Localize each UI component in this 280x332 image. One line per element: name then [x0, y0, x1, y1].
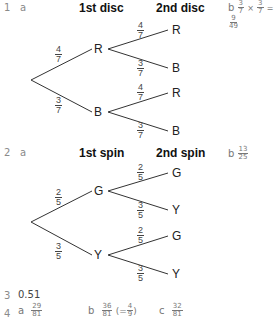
- part-label: b: [88, 305, 94, 316]
- fraction: 3681: [102, 303, 113, 318]
- fraction: 3281: [172, 303, 183, 318]
- answer-2b: b 1325: [228, 146, 248, 161]
- branch-probability: 25: [55, 188, 62, 207]
- tree-node: G: [172, 229, 181, 243]
- tree-node: G: [94, 184, 103, 198]
- part-label: a: [20, 147, 26, 158]
- answer-4b: b 3681 (=49): [88, 303, 137, 318]
- tree-header-second: 2nd spin: [156, 146, 205, 160]
- branch-probability: 37: [137, 59, 144, 78]
- answer-3: 0.51: [18, 289, 40, 300]
- branch-probability: 35: [137, 264, 144, 283]
- tree-node: B: [172, 61, 180, 75]
- part-label: b: [228, 148, 234, 159]
- fraction: 1325: [238, 146, 249, 161]
- part-label: a: [18, 305, 24, 316]
- tree-node: R: [172, 23, 181, 37]
- tree-node: Y: [172, 267, 180, 281]
- branch-probability: 47: [137, 83, 144, 102]
- tree-node: R: [94, 42, 103, 56]
- tree-node: B: [172, 124, 180, 138]
- branch-probability: 25: [137, 163, 144, 182]
- fraction: 2981: [31, 303, 42, 318]
- branch-probability: 25: [137, 226, 144, 245]
- branch-probability: 47: [55, 45, 62, 64]
- tree-node: R: [172, 86, 181, 100]
- branch-probability: 35: [137, 201, 144, 220]
- tree-header-first: 1st spin: [79, 146, 124, 160]
- branch-probability: 37: [55, 96, 62, 115]
- question-number: 4: [4, 308, 10, 319]
- tree-node: Y: [172, 203, 180, 217]
- question-number: 2: [4, 147, 10, 158]
- question-number: 3: [4, 290, 10, 301]
- branch-probability: 47: [137, 21, 144, 40]
- answer-4a: a 2981: [18, 303, 42, 318]
- tree-node: Y: [94, 248, 102, 262]
- branch-probability: 37: [137, 121, 144, 140]
- answer-4c: c 3281: [159, 303, 183, 318]
- part-label: c: [159, 305, 165, 316]
- tree-node: G: [172, 166, 181, 180]
- tree-node: B: [94, 105, 102, 119]
- branch-probability: 35: [55, 242, 62, 261]
